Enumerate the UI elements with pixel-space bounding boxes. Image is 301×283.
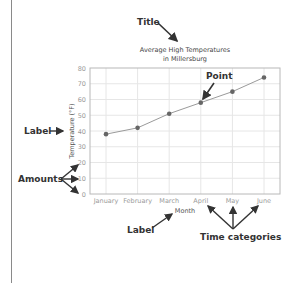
chart-title-line-1: Average High Temperatures [140, 46, 231, 54]
data-line [106, 77, 264, 134]
arrow-icon [203, 83, 214, 99]
y-tick-label: 60 [78, 96, 86, 104]
y-tick-label: 30 [78, 143, 86, 151]
data-point [199, 100, 204, 105]
annotation-point: Point [206, 71, 233, 81]
y-tick-label: 80 [78, 65, 86, 73]
x-tick-label: February [123, 197, 152, 205]
x-axis-ticks: JanuaryFebruaryMarchAprilMayJune [93, 197, 271, 205]
x-tick-label: January [93, 197, 119, 205]
data-point [135, 126, 140, 131]
line-chart: 01020304050607080 JanuaryFebruaryMarchAp… [0, 0, 301, 283]
annotation-title: Title [137, 17, 160, 27]
arrow-icon [233, 206, 258, 229]
x-tick-label: May [226, 197, 240, 205]
arrow-icon [61, 179, 78, 193]
annotation-ylabel: Label [24, 126, 51, 136]
chart-title-line-2: in Millersburg [163, 55, 207, 63]
arrow-icon [158, 23, 177, 41]
y-tick-label: 0 [82, 191, 86, 199]
data-point [167, 111, 172, 116]
y-tick-label: 50 [78, 112, 86, 120]
annotation-xlabel: Label [127, 225, 154, 235]
y-axis-label: Temperature (°F) [68, 103, 76, 159]
y-axis-ticks: 01020304050607080 [78, 65, 86, 199]
arrow-icon [152, 214, 172, 228]
y-tick-label: 20 [78, 159, 86, 167]
arrow-icon [61, 165, 78, 179]
y-tick-label: 40 [78, 128, 86, 136]
annotation-time-categories: Time categories [200, 232, 281, 242]
y-tick-label: 70 [78, 80, 86, 88]
y-tick-label: 10 [78, 175, 86, 183]
x-tick-label: April [193, 197, 208, 205]
annotation-amounts: Amounts [18, 174, 63, 184]
x-tick-label: June [256, 197, 271, 205]
data-point [230, 89, 235, 94]
arrow-icon [208, 206, 233, 229]
data-point [262, 75, 267, 80]
data-point [104, 132, 109, 137]
x-tick-label: March [159, 197, 179, 205]
gridlines [90, 68, 280, 194]
x-axis-label: Month [175, 207, 195, 215]
data-points [104, 75, 267, 136]
